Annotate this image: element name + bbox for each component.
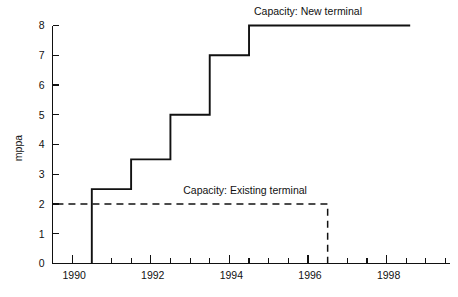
y-axis-title: mppa <box>12 135 24 161</box>
y-tick-label: 1 <box>39 228 45 240</box>
y-axis-tick-marks <box>53 26 59 264</box>
x-tick-label: 1994 <box>220 269 244 281</box>
y-tick-label: 5 <box>39 109 45 121</box>
scan-artifact-header <box>132 0 332 9</box>
y-tick-label: 2 <box>39 198 45 210</box>
x-tick-label: 1998 <box>377 269 401 281</box>
capacity-step-chart: 012345678 19901992199419961998 mppa Capa… <box>0 0 458 297</box>
y-tick-label: 4 <box>39 138 45 150</box>
x-tick-label: 1990 <box>62 269 86 281</box>
x-axis-tick-labels: 19901992199419961998 <box>62 269 400 281</box>
x-tick-label: 1992 <box>141 269 165 281</box>
y-tick-label: 8 <box>39 19 45 31</box>
y-axis-tick-labels: 012345678 <box>39 19 45 269</box>
existing-terminal-capacity-line <box>56 204 327 264</box>
x-axis-tick-marks <box>72 255 445 264</box>
chart-figure: 012345678 19901992199419961998 mppa Capa… <box>0 0 458 297</box>
existing-terminal-annotation: Capacity: Existing terminal <box>183 184 307 196</box>
y-tick-label: 0 <box>39 257 45 269</box>
new-terminal-capacity-line <box>92 26 410 264</box>
y-tick-label: 3 <box>39 168 45 180</box>
y-tick-label: 7 <box>39 49 45 61</box>
y-tick-label: 6 <box>39 79 45 91</box>
x-tick-label: 1996 <box>298 269 322 281</box>
data-series-group <box>56 26 410 264</box>
